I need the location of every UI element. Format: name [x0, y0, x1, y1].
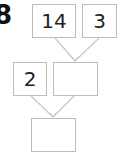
box-middle-left: 2 — [13, 62, 47, 96]
box-top-left: 14 — [32, 4, 76, 38]
box-top-right: 3 — [82, 4, 117, 38]
box-middle-right-answer[interactable] — [53, 62, 98, 96]
arrowhead-middle-icon — [72, 57, 78, 61]
box-bottom-answer[interactable] — [31, 118, 76, 152]
arrow-middle-left-to-bottom — [30, 95, 53, 117]
arrowhead-bottom-icon — [50, 113, 56, 117]
arrow-middle-right-to-bottom — [53, 95, 75, 117]
arrow-top-right-to-middle — [75, 38, 99, 61]
